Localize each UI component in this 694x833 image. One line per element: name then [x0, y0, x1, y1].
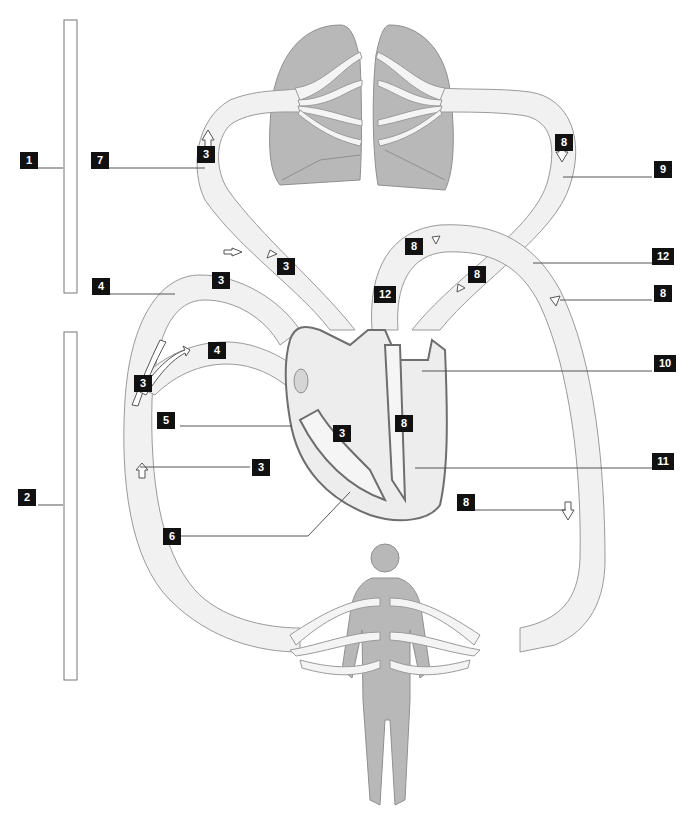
systemic-circuit-bracket [64, 332, 77, 680]
label-3-pulmonary-trunk: 3 [277, 258, 295, 275]
label-3-vena-cava: 3 [252, 459, 270, 476]
label-9: 9 [654, 161, 672, 178]
label-12-arch: 12 [652, 248, 674, 265]
heart [286, 327, 447, 520]
label-2: 2 [18, 489, 36, 506]
label-8-aorta-arch: 8 [405, 238, 423, 255]
circulatory-diagram [0, 0, 694, 833]
label-8-systemic: 8 [457, 494, 475, 511]
label-3-superior: 3 [212, 272, 230, 289]
label-10: 10 [654, 355, 676, 372]
pulmonary-circuit-bracket [64, 20, 77, 293]
label-5: 5 [157, 412, 175, 429]
label-4-superior: 4 [92, 278, 110, 295]
label-3-pulmonary-artery: 3 [197, 146, 215, 163]
label-3-veins: 3 [134, 375, 152, 392]
label-3-right-heart: 3 [333, 425, 351, 442]
label-8-left-heart: 8 [395, 415, 413, 432]
label-8-descending: 8 [468, 266, 486, 283]
label-12-aorta: 12 [374, 286, 396, 303]
label-4-inferior: 4 [208, 342, 226, 359]
label-7: 7 [91, 152, 109, 169]
vena-cava [124, 275, 300, 652]
label-6: 6 [163, 528, 181, 545]
label-11: 11 [652, 453, 674, 470]
label-1: 1 [20, 152, 38, 169]
label-8-pulmonary-vein: 8 [555, 134, 573, 151]
arrow-down-icon [562, 502, 574, 520]
label-8-right-upper: 8 [654, 285, 672, 302]
arrow-right-icon [224, 248, 242, 256]
